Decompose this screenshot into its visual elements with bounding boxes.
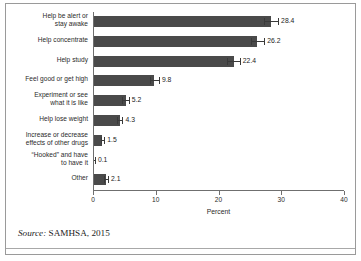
value-label: 22.4 bbox=[243, 57, 256, 65]
error-cap-low bbox=[264, 18, 265, 25]
bar-row: Other2.1 bbox=[0, 170, 361, 190]
error-cap-low bbox=[101, 137, 102, 144]
category-label: Help concentrate bbox=[0, 36, 88, 44]
x-tick bbox=[93, 191, 94, 195]
x-tick bbox=[281, 191, 282, 195]
error-bar bbox=[251, 41, 265, 42]
plot-area: Help be alert or stay awake28.4Help conc… bbox=[0, 0, 361, 200]
x-axis-title: Percent bbox=[93, 208, 344, 215]
value-label: 0.1 bbox=[98, 156, 107, 164]
bar-row: Help lose weight4.3 bbox=[0, 111, 361, 131]
bar-row: Help be alert or stay awake28.4 bbox=[0, 12, 361, 32]
error-cap-high bbox=[129, 97, 130, 104]
error-bar bbox=[264, 21, 278, 22]
source-divider bbox=[6, 248, 355, 249]
category-label: Help study bbox=[0, 56, 88, 64]
category-label: Help be alert or stay awake bbox=[0, 12, 88, 28]
value-label: 2.1 bbox=[111, 175, 120, 183]
bar bbox=[93, 75, 154, 86]
category-label: Experiment or see what it is like bbox=[0, 91, 88, 107]
error-cap-high bbox=[108, 176, 109, 183]
source-label: Source: bbox=[18, 228, 46, 238]
bar bbox=[93, 16, 271, 27]
error-cap-high bbox=[122, 117, 123, 124]
value-label: 26.2 bbox=[267, 37, 280, 45]
category-label: “Hooked” and have to have it bbox=[0, 151, 88, 167]
x-tick-label: 0 bbox=[80, 196, 106, 204]
error-cap-high bbox=[159, 77, 160, 84]
y-axis-line bbox=[93, 12, 94, 190]
bar bbox=[93, 36, 257, 47]
bar-row: Feel good or get high9.8 bbox=[0, 71, 361, 91]
bar bbox=[93, 56, 234, 67]
x-tick bbox=[219, 191, 220, 195]
error-cap-low bbox=[104, 176, 105, 183]
x-tick bbox=[156, 191, 157, 195]
category-label: Help lose weight bbox=[0, 115, 88, 123]
value-label: 9.8 bbox=[162, 76, 171, 84]
error-cap-low bbox=[251, 38, 252, 45]
error-bar bbox=[227, 61, 240, 62]
error-cap-high bbox=[240, 58, 241, 65]
value-label: 28.4 bbox=[281, 17, 294, 25]
category-label: Increase or decrease effects of other dr… bbox=[0, 131, 88, 147]
x-tick-label: 30 bbox=[268, 196, 294, 204]
chart-figure: Help be alert or stay awake28.4Help conc… bbox=[0, 0, 361, 261]
error-bar bbox=[150, 80, 159, 81]
error-cap-high bbox=[278, 18, 279, 25]
bar-row: Experiment or see what it is like5.2 bbox=[0, 91, 361, 111]
bar bbox=[93, 95, 126, 106]
error-cap-high bbox=[264, 38, 265, 45]
category-label: Feel good or get high bbox=[0, 75, 88, 83]
x-tick-label: 40 bbox=[331, 196, 357, 204]
bar-row: Help concentrate26.2 bbox=[0, 32, 361, 52]
value-label: 1.5 bbox=[107, 136, 116, 144]
bar bbox=[93, 115, 120, 126]
bar-row: Help study22.4 bbox=[0, 52, 361, 72]
error-cap-high bbox=[104, 137, 105, 144]
bar-row: Increase or decrease effects of other dr… bbox=[0, 131, 361, 151]
source-value: SAMHSA, 2015 bbox=[46, 228, 110, 238]
value-label: 5.2 bbox=[132, 96, 141, 104]
error-cap-high bbox=[95, 157, 96, 164]
bar-row: “Hooked” and have to have it0.1 bbox=[0, 151, 361, 171]
x-tick-label: 10 bbox=[143, 196, 169, 204]
error-cap-low bbox=[117, 117, 118, 124]
x-tick-label: 20 bbox=[206, 196, 232, 204]
error-cap-low bbox=[227, 58, 228, 65]
error-cap-low bbox=[150, 77, 151, 84]
x-tick bbox=[344, 191, 345, 195]
source-note: Source: SAMHSA, 2015 bbox=[18, 228, 110, 238]
category-label: Other bbox=[0, 174, 88, 182]
error-cap-low bbox=[122, 97, 123, 104]
value-label: 4.3 bbox=[125, 116, 134, 124]
